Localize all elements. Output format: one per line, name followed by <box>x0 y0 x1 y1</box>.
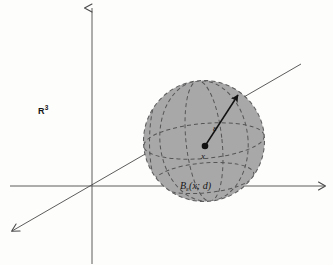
ball-label-args: (x; d) <box>189 180 211 191</box>
space-label-exponent: 3 <box>45 104 49 111</box>
center-point-dot <box>202 143 209 150</box>
center-point-label: x <box>201 152 205 161</box>
space-label-base: R <box>38 106 45 116</box>
diagram-canvas <box>0 0 333 265</box>
radius-label: ε <box>213 124 217 133</box>
ball-label: Bε(x; d) <box>180 181 211 191</box>
ball-diagram-figure: R3 ε x Bε(x; d) <box>0 0 333 265</box>
space-label: R3 <box>38 107 49 116</box>
ball-label-subscript: ε <box>186 185 189 193</box>
